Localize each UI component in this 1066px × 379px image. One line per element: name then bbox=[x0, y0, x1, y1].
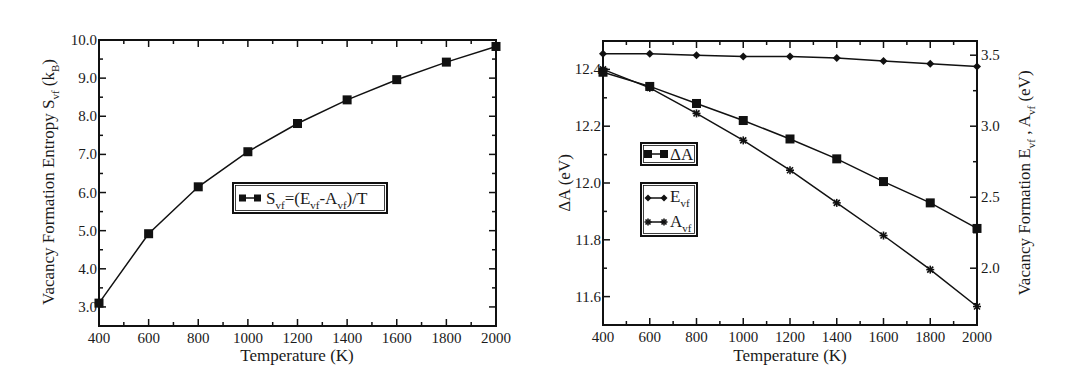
x-tick-label: 2000 bbox=[962, 329, 992, 345]
y-tick-label: 4.0 bbox=[78, 261, 97, 277]
star-marker-icon bbox=[646, 84, 654, 92]
x-tick-label: 1200 bbox=[283, 330, 313, 346]
entropy-x-axis-title: Temperature (K) bbox=[240, 346, 354, 365]
free-energy-plot-area: 40060080010001200140016001800200011.611.… bbox=[575, 41, 1000, 345]
delta-a-legend: ΔA bbox=[641, 143, 697, 165]
x-tick-label: 800 bbox=[685, 329, 708, 345]
series-line bbox=[99, 47, 496, 304]
x-tick-label: 1000 bbox=[233, 330, 263, 346]
diamond-marker-icon bbox=[833, 54, 841, 62]
star-marker-icon bbox=[693, 109, 701, 117]
entropy-y-axis-title: Vacancy Formation Entropy Svf (kB) bbox=[39, 59, 61, 305]
square-marker-icon bbox=[692, 99, 701, 108]
delta-a-y-axis-title: ΔA (eV) bbox=[555, 154, 574, 212]
diamond-marker-icon bbox=[739, 53, 747, 61]
x-tick-label: 1800 bbox=[431, 330, 461, 346]
star-marker-icon bbox=[833, 199, 841, 207]
square-marker-icon bbox=[243, 147, 252, 156]
y2-tick-label: 3.5 bbox=[981, 47, 1000, 63]
x-tick-label: 1400 bbox=[332, 330, 362, 346]
x-tick-label: 600 bbox=[639, 329, 662, 345]
x-tick-label: 1600 bbox=[869, 329, 899, 345]
y-tick-label: 10.0 bbox=[71, 32, 97, 48]
y-tick-label: 9.0 bbox=[78, 70, 97, 86]
star-marker-icon bbox=[599, 65, 607, 73]
y2-tick-label: 2.0 bbox=[981, 260, 1000, 276]
star-marker-icon bbox=[973, 303, 981, 311]
x-tick-label: 800 bbox=[187, 330, 210, 346]
x-tick-label: 1800 bbox=[915, 329, 945, 345]
y-tick-label: 11.8 bbox=[575, 232, 601, 248]
diamond-marker-icon bbox=[786, 53, 794, 61]
square-marker-icon bbox=[786, 134, 795, 143]
diamond-marker-icon bbox=[646, 50, 654, 58]
entropy-chart: 4006008001000120014001600180020003.04.05… bbox=[0, 0, 1066, 379]
y-tick-label: 5.0 bbox=[78, 223, 97, 239]
square-marker-icon bbox=[832, 154, 841, 163]
x-tick-label: 1200 bbox=[775, 329, 805, 345]
figure: 4006008001000120014001600180020003.04.05… bbox=[0, 0, 1066, 379]
formation-energy-y2-axis-title: Vacancy Formation Evf , Avf (eV) bbox=[1015, 70, 1037, 295]
square-marker-icon bbox=[343, 95, 352, 104]
square-marker-icon bbox=[392, 75, 401, 84]
square-marker-icon bbox=[739, 116, 748, 125]
star-marker-icon bbox=[926, 266, 934, 274]
square-marker-icon bbox=[492, 42, 501, 51]
square-marker-icon bbox=[879, 177, 888, 186]
x-tick-label: 1600 bbox=[382, 330, 412, 346]
star-marker-icon bbox=[880, 232, 888, 240]
delta-a-legend-label: ΔA bbox=[670, 145, 694, 164]
y2-tick-label: 2.5 bbox=[981, 189, 1000, 205]
square-marker-icon bbox=[973, 224, 982, 233]
diamond-marker-icon bbox=[693, 51, 701, 59]
square-marker-icon bbox=[442, 58, 451, 67]
entropy-legend: Svf=(Evf-Avf)/T bbox=[233, 183, 387, 213]
x-tick-label: 1000 bbox=[728, 329, 758, 345]
free-energy-x-axis-title: Temperature (K) bbox=[733, 346, 847, 365]
square-marker-icon bbox=[95, 299, 104, 308]
star-marker-icon bbox=[739, 136, 747, 144]
formation-energy-legend: Evf Avf bbox=[641, 183, 697, 236]
star-marker-icon bbox=[786, 166, 794, 174]
y2-tick-label: 3.0 bbox=[981, 118, 1000, 134]
x-tick-label: 400 bbox=[592, 329, 615, 345]
y-tick-label: 12.2 bbox=[575, 118, 601, 134]
y-tick-label: 3.0 bbox=[78, 299, 97, 315]
square-marker-icon bbox=[144, 229, 153, 238]
x-tick-label: 400 bbox=[88, 330, 111, 346]
y-tick-label: 11.6 bbox=[575, 289, 601, 305]
x-tick-label: 600 bbox=[137, 330, 160, 346]
x-tick-label: 2000 bbox=[481, 330, 511, 346]
y-tick-label: 7.0 bbox=[78, 146, 97, 162]
y-tick-label: 12.0 bbox=[575, 175, 601, 191]
y-tick-label: 12.4 bbox=[575, 61, 602, 77]
square-marker-icon bbox=[926, 198, 935, 207]
series-markers bbox=[95, 42, 501, 308]
x-tick-label: 1400 bbox=[822, 329, 852, 345]
square-marker-icon bbox=[194, 182, 203, 191]
series-markers bbox=[599, 50, 981, 71]
diamond-marker-icon bbox=[880, 57, 888, 65]
y-tick-label: 6.0 bbox=[78, 185, 97, 201]
diamond-marker-icon bbox=[973, 63, 981, 71]
y-tick-label: 8.0 bbox=[78, 108, 97, 124]
diamond-marker-icon bbox=[599, 50, 607, 58]
square-marker-icon bbox=[293, 119, 302, 128]
diamond-marker-icon bbox=[926, 60, 934, 68]
